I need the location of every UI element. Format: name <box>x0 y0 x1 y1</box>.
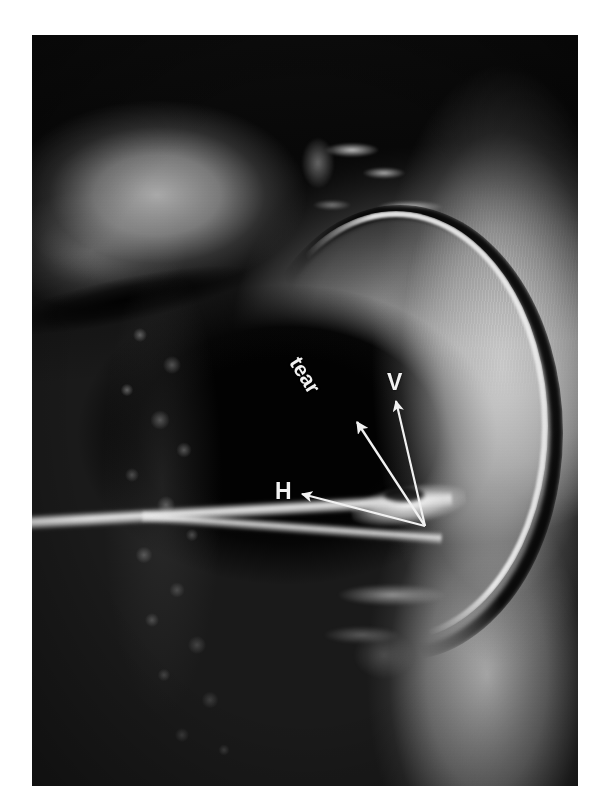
mri-scan-image: tear V H <box>32 35 578 786</box>
figure-root: tear V H <box>0 0 605 802</box>
image-vignette <box>32 35 578 786</box>
